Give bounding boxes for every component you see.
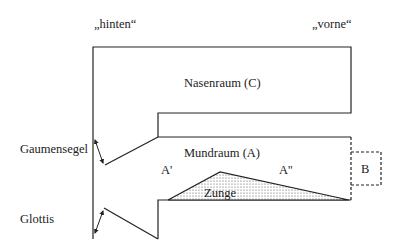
label-oral-front: A'' [279,163,293,177]
label-back: „hinten“ [94,17,137,31]
label-velum: Gaumensegel [20,142,89,156]
oral-cavity-floor [158,200,351,239]
tongue-shape [168,172,349,200]
label-tongue: Zunge [204,186,236,200]
label-glottis: Glottis [20,212,54,226]
glottis-double-arrow-icon [95,211,103,233]
label-lips: B [361,162,369,176]
glottis-line [104,208,158,239]
label-nasal-cavity: Nasenraum (C) [184,76,261,90]
velum-double-arrow-icon [95,140,103,163]
label-front: „vorne“ [312,17,352,31]
label-oral-cavity: Mundraum (A) [184,146,260,160]
velum-line [105,137,158,165]
vocal-tract-diagram: „hinten“ „vorne“ Nasenraum (C) Mundraum … [0,0,403,250]
label-oral-back: A' [161,163,172,177]
